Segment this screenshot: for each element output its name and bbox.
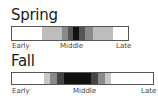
bar-segment [42,27,62,40]
fall-middle-label: Middle [73,87,96,95]
bar-segment [91,73,98,84]
spring-early-label: Early [12,42,30,50]
bar-segment [64,73,91,84]
spring-bar [11,26,129,41]
bar-segment [85,27,93,40]
spring-late-label: Late [116,42,131,50]
bar-segment [12,73,44,84]
spring-middle-label: Middle [60,42,83,50]
fall-bar [11,72,154,85]
bar-segment [113,27,128,40]
bar-segment [93,27,113,40]
bar-segment [111,73,153,84]
fall-title: Fall [11,54,35,69]
bar-segment [98,73,105,84]
bar-segment [50,73,57,84]
fall-late-label: Late [141,87,156,95]
bar-segment [57,73,64,84]
spring-title: Spring [11,8,58,23]
fall-early-label: Early [12,87,30,95]
bar-segment [12,27,42,40]
